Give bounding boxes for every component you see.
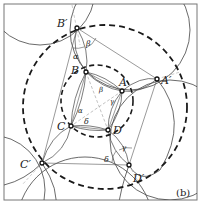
point-d — [106, 128, 110, 132]
point-cprime — [40, 161, 44, 165]
point-b — [84, 70, 88, 74]
point-aprime — [155, 77, 159, 81]
point-a — [120, 89, 124, 93]
label-c: C — [57, 120, 66, 133]
angle-beta-bprime: β — [85, 39, 91, 48]
circle-cprime-left — [0, 135, 45, 208]
point-dprime — [127, 163, 131, 167]
label-d: D — [112, 124, 122, 137]
diag-bd — [86, 72, 108, 130]
angle-delta-c: δ — [84, 117, 89, 126]
point-c — [69, 124, 73, 128]
angle-beta-a: β — [98, 86, 103, 94]
label-b: B — [70, 64, 79, 77]
arc-bottom — [42, 163, 56, 208]
label-aprime: A′ — [160, 74, 172, 87]
label-dprime: D′ — [132, 172, 145, 185]
panel-label: (b) — [176, 187, 190, 198]
angle-delta-dprime: δ — [104, 155, 109, 164]
arc-right-outer — [129, 79, 174, 176]
angle-gamma-dprime: γ — [122, 144, 127, 152]
label-cprime: C′ — [20, 158, 31, 171]
ext-bprime — [72, 5, 80, 45]
geometry-diagram: B′ B A A′ C D C′ D′ α β β γ α δ δ γ (b) — [0, 0, 201, 208]
angle-arc-alpha-bprime — [73, 47, 84, 48]
angle-alpha-c: α — [78, 107, 83, 115]
label-a: A — [118, 76, 127, 89]
label-bprime: B′ — [56, 17, 68, 30]
outer-quadrilateral — [42, 28, 157, 165]
point-bprime — [75, 26, 79, 30]
angle-gamma-a: γ — [110, 98, 115, 106]
points — [40, 26, 159, 167]
circle-bprime-left — [0, 0, 95, 45]
angle-alpha-bprime: α — [73, 52, 79, 61]
